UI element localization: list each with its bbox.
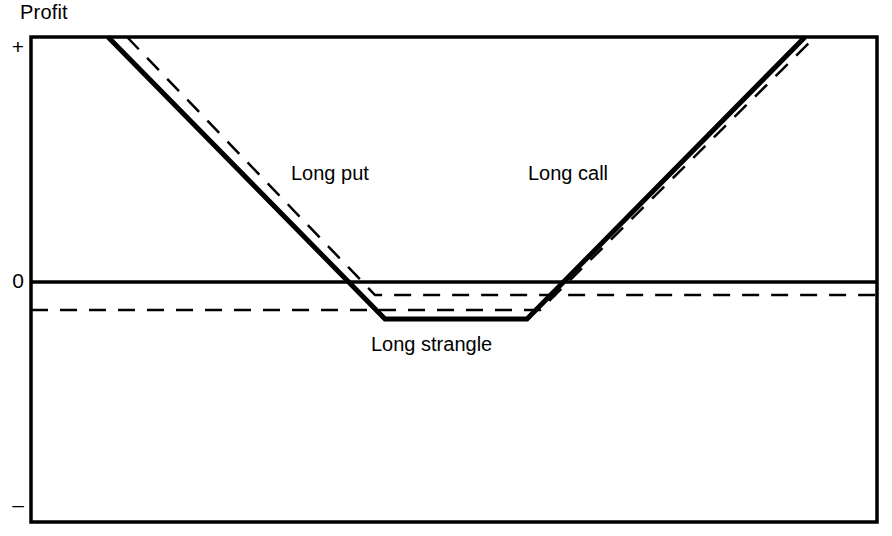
payoff-diagram-figure: Profit + 0 – Long put Long call Long str… bbox=[0, 0, 892, 536]
long-strangle-label: Long strangle bbox=[371, 334, 492, 354]
plot-area bbox=[0, 0, 892, 536]
long-put-label: Long put bbox=[291, 163, 369, 183]
plot-frame bbox=[31, 37, 877, 522]
long-call-label: Long call bbox=[528, 163, 608, 183]
